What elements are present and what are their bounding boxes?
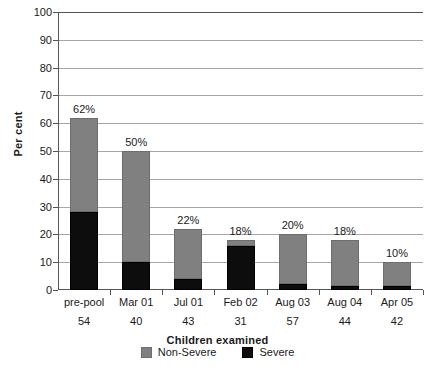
stacked-bar [227,240,255,290]
bar-group: 18% [331,12,359,290]
y-axis-tick-mark [53,290,58,291]
bar-segment-non-severe [174,229,202,279]
legend-item: Non-Severe [141,346,217,358]
bar-segment-severe [279,284,307,290]
legend: Non-SevereSevere [0,346,435,358]
bar-value-label: 18% [334,225,356,237]
bar-segment-severe [174,279,202,290]
bar-segment-non-severe [70,118,98,213]
bar-segment-non-severe [122,151,150,262]
y-axis-tick-label: 0 [26,285,52,295]
x-axis-tick-mark [371,290,372,295]
bar-segment-severe [70,212,98,290]
bar-segment-severe [331,286,359,290]
y-axis-tick-label: 80 [26,63,52,73]
bar-value-label: 10% [386,247,408,259]
bar-group: 18% [227,12,255,290]
bar-group: 10% [383,12,411,290]
x-axis-tick-mark [110,290,111,295]
bar-group: 22% [174,12,202,290]
y-axis-tick-label: 50 [26,146,52,156]
legend-swatch-nonsevere [141,347,152,358]
bar-segment-non-severe [383,262,411,286]
x-axis-count-label: 40 [130,315,142,327]
x-axis-category-label: Feb 02 [223,296,257,308]
x-axis-count-label: 43 [182,315,194,327]
bar-segment-non-severe [331,240,359,286]
bar-value-label: 50% [125,136,147,148]
bar-value-label: 62% [73,103,95,115]
y-axis-tick-label: 100 [26,7,52,17]
bar-segment-severe [227,246,255,290]
stacked-bar [174,229,202,290]
bar-segment-severe [122,262,150,290]
bar-group: 62% [70,12,98,290]
y-axis-tick-label: 60 [26,118,52,128]
stacked-bar [383,262,411,290]
x-axis-count-label: 44 [339,315,351,327]
x-axis-count-label: 42 [391,315,403,327]
y-axis-title: Per cent [12,94,24,174]
stacked-bar [331,240,359,290]
y-axis-tick-label: 20 [26,229,52,239]
bar-value-label: 22% [177,214,199,226]
x-axis-count-label: 57 [287,315,299,327]
stacked-bar [70,118,98,290]
bars-layer: 62%50%22%18%20%18%10% [58,12,423,290]
x-axis-category-label: pre-pool [64,296,104,308]
x-axis-category-label: Jul 01 [174,296,203,308]
y-axis-tick-label: 40 [26,174,52,184]
x-axis-tick-mark [162,290,163,295]
y-axis-tick-label: 70 [26,90,52,100]
x-axis-category-label: Aug 03 [275,296,310,308]
bar-value-label: 20% [282,219,304,231]
legend-label: Non-Severe [158,346,217,358]
x-axis-tick-mark [267,290,268,295]
y-axis-tick-label: 30 [26,202,52,212]
x-axis-category-label: Mar 01 [119,296,153,308]
bar-value-label: 18% [229,225,251,237]
legend-label: Severe [259,346,294,358]
legend-swatch-severe [242,347,253,358]
bar-segment-severe [383,286,411,290]
bar-group: 50% [122,12,150,290]
legend-item: Severe [242,346,294,358]
y-axis-tick-labels: 0102030405060708090100 [24,0,52,366]
x-axis-count-label: 31 [234,315,246,327]
x-axis-tick-mark [423,290,424,295]
stacked-bar [122,151,150,290]
y-axis-tick-label: 90 [26,35,52,45]
x-axis-category-label: Apr 05 [381,296,413,308]
x-axis-category-label: Aug 04 [327,296,362,308]
plot-area: 62%50%22%18%20%18%10% [58,12,423,290]
bar-chart: Per cent 0102030405060708090100 62%50%22… [0,0,435,366]
bar-segment-non-severe [279,234,307,284]
x-axis-tick-mark [319,290,320,295]
y-axis-tick-label: 10 [26,257,52,267]
stacked-bar [279,234,307,290]
x-axis-tick-mark [214,290,215,295]
x-axis-count-label: 54 [78,315,90,327]
bar-group: 20% [279,12,307,290]
x-axis-title: Children examined [0,334,435,346]
